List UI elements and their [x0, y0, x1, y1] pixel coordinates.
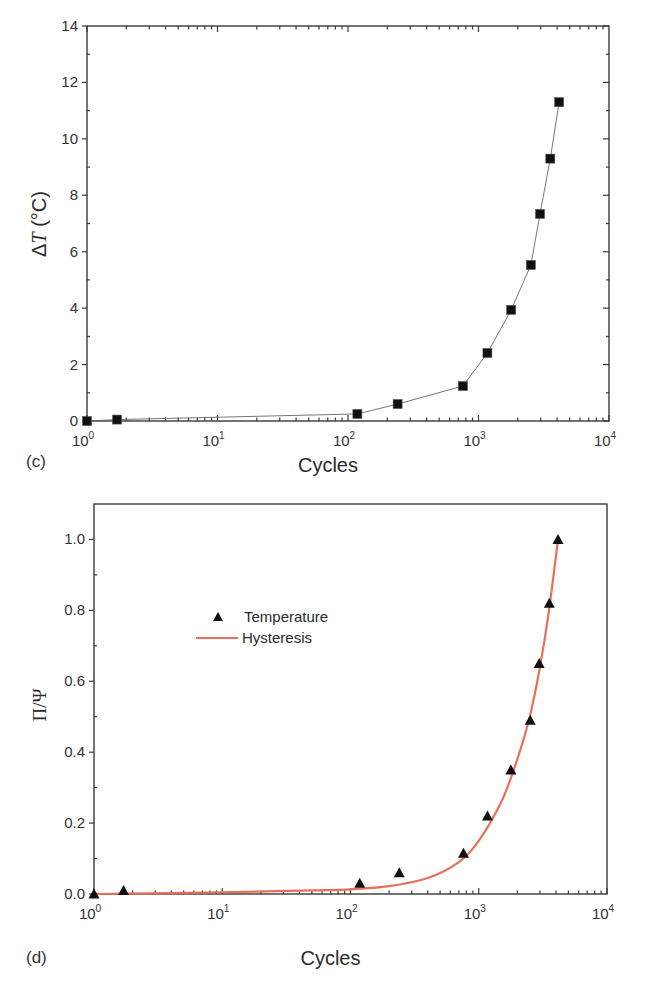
square-marker [555, 98, 564, 107]
x-tick-label: 101 [202, 430, 225, 449]
panel-label: (c) [26, 452, 46, 471]
x-tick-label: 104 [592, 903, 615, 922]
triangle-marker [458, 848, 469, 858]
figure: 10010110210310402468101214Cycles(c)ΔT (°… [0, 0, 647, 993]
square-marker [458, 382, 467, 391]
legend: TemperatureHysteresis [196, 608, 328, 646]
triangle-marker [544, 598, 555, 608]
y-tick-label: 0.6 [64, 672, 85, 689]
y-tick-label: 0 [70, 412, 78, 429]
square-marker [113, 415, 122, 424]
triangle-marker [482, 811, 493, 821]
y-tick-label: 0.2 [64, 814, 85, 831]
y-tick-label: 6 [70, 243, 78, 260]
x-tick-label: 102 [333, 430, 356, 449]
x-axis-title: Cycles [298, 454, 358, 476]
plot-frame [87, 26, 609, 421]
series-line [87, 102, 559, 421]
square-marker [507, 305, 516, 314]
x-tick-label: 104 [594, 430, 617, 449]
square-marker [353, 409, 362, 418]
x-tick-label: 101 [207, 903, 230, 922]
y-tick-label: 4 [70, 299, 78, 316]
square-marker [393, 400, 402, 409]
triangle-marker [354, 878, 365, 888]
panel-label: (d) [26, 948, 47, 967]
triangle-marker [534, 658, 545, 668]
x-tick-label: 102 [335, 903, 358, 922]
hysteresis-curve [94, 539, 558, 894]
y-tick-label: 0.4 [64, 743, 85, 760]
x-tick-label: 103 [464, 903, 487, 922]
square-marker [483, 349, 492, 358]
square-marker [536, 209, 545, 218]
x-tick-label: 100 [72, 430, 95, 449]
y-tick-label: 0.8 [64, 601, 85, 618]
legend-triangle-icon [213, 612, 223, 621]
y-tick-label: 2 [70, 356, 78, 373]
square-marker [83, 417, 92, 426]
square-marker [526, 260, 535, 269]
y-tick-label: 12 [61, 73, 78, 90]
triangle-marker [553, 534, 564, 544]
legend-label: Temperature [244, 608, 328, 625]
y-tick-label: 14 [61, 17, 78, 34]
y-tick-label: 0.0 [64, 885, 85, 902]
y-tick-label: 1.0 [64, 530, 85, 547]
y-axis-title: ΔT (°C) [28, 191, 50, 257]
triangle-marker [118, 885, 129, 895]
x-axis-title: Cycles [300, 947, 360, 969]
legend-label: Hysteresis [242, 629, 312, 646]
triangle-marker [394, 867, 405, 877]
y-tick-label: 10 [61, 130, 78, 147]
chart-c-delta-t-vs-cycles: 10010110210310402468101214Cycles(c)ΔT (°… [26, 17, 617, 476]
y-tick-label: 8 [70, 186, 78, 203]
triangle-marker [525, 715, 536, 725]
plot-frame [94, 504, 607, 894]
y-axis-title: Π/Ψ [29, 688, 50, 721]
chart-d-pi-psi-vs-cycles: 1001011021031040.00.20.40.60.81.0Cycles(… [26, 504, 615, 969]
square-marker [546, 154, 555, 163]
x-tick-label: 103 [463, 430, 486, 449]
x-tick-label: 100 [79, 903, 102, 922]
